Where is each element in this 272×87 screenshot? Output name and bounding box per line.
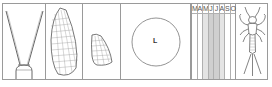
- panel-size-circle: L: [121, 4, 191, 79]
- size-circle-label: L: [153, 37, 157, 44]
- nymph-icon: [236, 4, 269, 79]
- month-col-oct: O: [230, 4, 236, 79]
- panel-head-antennae: [3, 4, 46, 79]
- month-label: O: [231, 5, 236, 13]
- flight-period-chart: M A M J J A S O: [191, 4, 236, 79]
- head-antennae-icon: [3, 4, 46, 79]
- panel-nymph: [236, 4, 269, 79]
- hindwing-icon: [83, 4, 121, 79]
- forewing-icon: [46, 4, 83, 79]
- panel-hindwing: [83, 4, 121, 79]
- panel-forewing: [46, 4, 83, 79]
- divider: [231, 13, 236, 14]
- identification-plate: L M A M J J A S O: [2, 3, 268, 80]
